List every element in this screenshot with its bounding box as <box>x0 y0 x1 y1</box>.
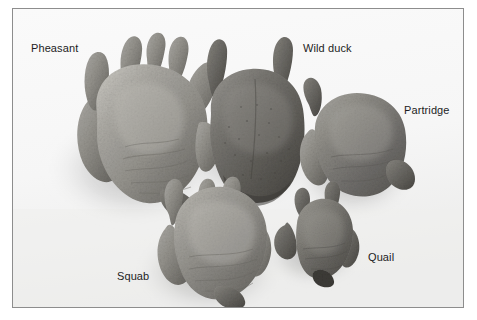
game-birds-photograph <box>13 9 463 307</box>
bird-label-quail: Quail <box>368 251 394 264</box>
figure-frame: Pheasant Wild duck Partridge Squab Quail <box>12 8 464 308</box>
bird-label-partridge: Partridge <box>404 104 450 117</box>
bird-label-squab: Squab <box>117 270 149 283</box>
bird-label-wild-duck: Wild duck <box>303 42 352 55</box>
figure-page: Pheasant Wild duck Partridge Squab Quail <box>0 0 477 320</box>
bird-label-pheasant: Pheasant <box>31 42 78 55</box>
